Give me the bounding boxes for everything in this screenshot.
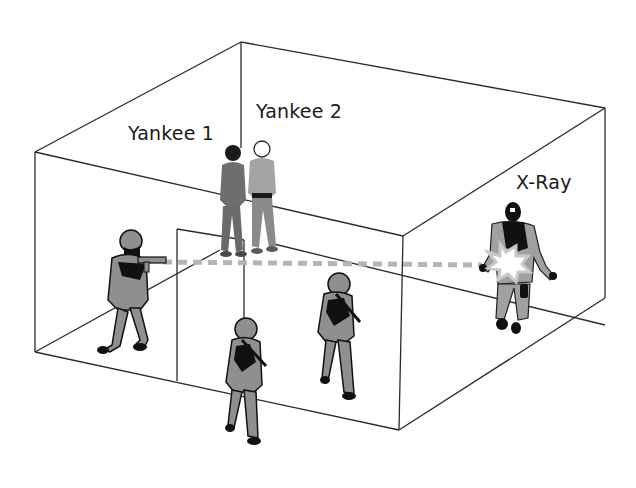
label-x-ray: X-Ray bbox=[516, 171, 572, 193]
room-diagram bbox=[0, 0, 636, 488]
officer-left-figure bbox=[97, 230, 166, 354]
label-yankee-2: Yankee 2 bbox=[256, 100, 342, 122]
sight-line bbox=[163, 262, 482, 265]
yankee-2-figure bbox=[248, 141, 278, 254]
officer-center-front-figure bbox=[225, 318, 266, 445]
label-yankee-1: Yankee 1 bbox=[128, 122, 214, 144]
officer-center-back-figure bbox=[318, 273, 360, 400]
